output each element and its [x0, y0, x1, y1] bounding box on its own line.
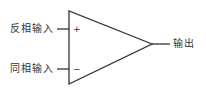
output-label: 输出: [173, 38, 195, 50]
plus-sign: +: [73, 24, 81, 34]
op-amp-triangle: [69, 11, 152, 84]
noninverting-input-label: 同相输入: [10, 63, 54, 75]
inverting-input-label: 反相输入: [10, 23, 54, 35]
minus-sign: −: [73, 64, 81, 74]
